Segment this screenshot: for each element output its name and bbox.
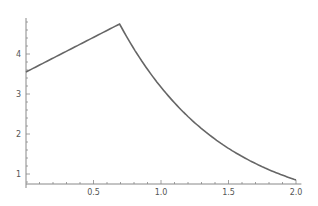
x-tick-label: 2.0 [290, 188, 303, 197]
x-tick-label: 1.5 [222, 188, 235, 197]
axes: 0.51.01.52.01234 [16, 18, 302, 197]
y-tick-label: 1 [16, 170, 21, 179]
y-tick-label: 3 [16, 90, 21, 99]
y-tick-label: 4 [16, 50, 21, 59]
x-tick-label: 0.5 [87, 188, 100, 197]
y-tick-label: 2 [16, 130, 21, 139]
x-tick-label: 1.0 [155, 188, 168, 197]
line-chart: 0.51.01.52.01234 [0, 0, 318, 206]
series-line [26, 24, 296, 180]
